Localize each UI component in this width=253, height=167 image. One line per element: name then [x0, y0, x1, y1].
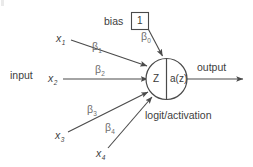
weight-label-beta4: β4 [105, 122, 115, 133]
diagram-vector-layer [0, 0, 253, 167]
logit-activation-caption: logit/activation [145, 110, 212, 121]
bias-label: bias [104, 16, 123, 27]
input-label-x4: x4 [96, 148, 105, 159]
connection-x1 [71, 40, 147, 66]
neuron-logit-text: Z [153, 74, 159, 84]
input-label-x1: x1 [56, 33, 65, 44]
bias-value: 1 [137, 16, 143, 26]
weight-label-beta3: β3 [87, 104, 97, 115]
neuron-diagram: bias 1 β0 input x1 β1 x2 β2 x3 β3 x4 β4 … [0, 0, 253, 167]
weight-label-beta0: β0 [141, 31, 151, 42]
weight-label-beta2: β2 [95, 64, 105, 75]
output-label: output [197, 62, 226, 73]
neuron-activation-text: a(z) [170, 74, 187, 84]
input-group-label: input [10, 70, 33, 81]
weight-label-beta1: β1 [92, 41, 102, 52]
input-label-x2: x2 [48, 73, 57, 84]
input-label-x3: x3 [55, 130, 64, 141]
